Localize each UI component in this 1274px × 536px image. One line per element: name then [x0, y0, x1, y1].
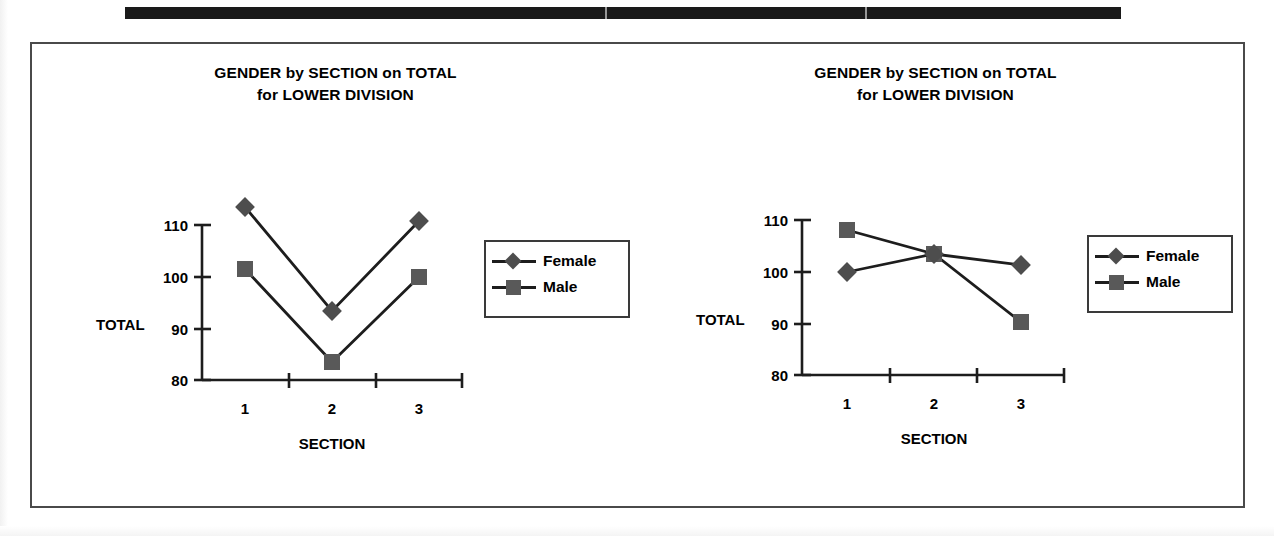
- legend-label-female-right: Female: [1146, 247, 1199, 265]
- x-axis-title-left: SECTION: [272, 435, 392, 452]
- x-tick-label-3-right: 3: [1009, 395, 1033, 412]
- y-tick-label-100-right: 100: [754, 264, 788, 281]
- x-tick-label-3-left: 3: [407, 400, 431, 417]
- series-female-left: [235, 197, 429, 321]
- axes-right: [794, 219, 1064, 383]
- x-axis-title-right: SECTION: [874, 430, 994, 447]
- chart-panel-right: GENDER by SECTION on TOTAL for LOWER DIV…: [632, 44, 1239, 506]
- x-tick-label-2-right: 2: [922, 395, 946, 412]
- legend-label-male-left: Male: [543, 278, 577, 296]
- y-tick-label-90-left: 90: [154, 321, 188, 338]
- legend-item-female-left[interactable]: Female: [492, 248, 618, 274]
- legend-label-female-left: Female: [543, 252, 596, 270]
- x-tick-label-2-left: 2: [320, 400, 344, 417]
- y-axis-title-right: TOTAL: [696, 311, 745, 328]
- y-tick-label-80-right: 80: [754, 367, 788, 384]
- legend-right: Female Male: [1087, 235, 1233, 313]
- y-tick-label-110-left: 110: [154, 217, 188, 234]
- legend-item-male-right[interactable]: Male: [1095, 269, 1221, 295]
- female-diamond-marker-icon: [1095, 246, 1139, 266]
- y-tick-label-80-left: 80: [154, 372, 188, 389]
- chart-panel-left: GENDER by SECTION on TOTAL for LOWER DIV…: [32, 44, 639, 506]
- male-square-marker-icon: [1095, 272, 1139, 292]
- male-square-marker-icon: [492, 277, 536, 297]
- x-tick-label-1-right: 1: [835, 395, 859, 412]
- legend-left: Female Male: [484, 240, 630, 318]
- scan-edge-bottom: [0, 526, 1274, 536]
- y-tick-label-110-right: 110: [754, 212, 788, 229]
- y-tick-label-100-left: 100: [154, 269, 188, 286]
- plot-area-right: TOTAL 110 100 90 80 1 2 3 SECTION Female: [632, 44, 1239, 506]
- y-tick-label-90-right: 90: [754, 316, 788, 333]
- scan-artifact-bar: [125, 7, 1121, 19]
- plot-area-left: TOTAL 110 100 90 80 1 2 3 SECTION Female: [32, 44, 639, 506]
- series-male-right: [839, 222, 1029, 330]
- legend-label-male-right: Male: [1146, 273, 1180, 291]
- legend-item-male-left[interactable]: Male: [492, 274, 618, 300]
- series-female-right: [837, 244, 1031, 282]
- legend-item-female-right[interactable]: Female: [1095, 243, 1221, 269]
- female-diamond-marker-icon: [492, 251, 536, 271]
- x-tick-label-1-left: 1: [233, 400, 257, 417]
- figure-frame: GENDER by SECTION on TOTAL for LOWER DIV…: [30, 42, 1245, 508]
- scan-edge-left: [0, 0, 8, 536]
- y-axis-title-left: TOTAL: [96, 316, 145, 333]
